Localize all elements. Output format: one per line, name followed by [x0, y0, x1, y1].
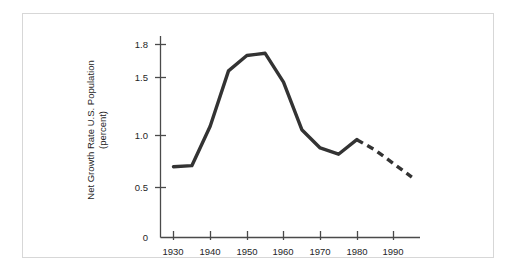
line-chart-plot [0, 0, 516, 272]
series-line-observed [174, 53, 357, 166]
figure-root: Net Growth Rate U.S. Population (percent… [0, 0, 516, 272]
series-line-projected [357, 140, 412, 177]
